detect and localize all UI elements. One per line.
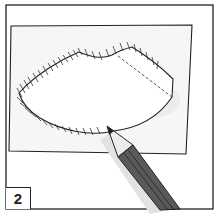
step-number-badge: 2: [6, 187, 31, 209]
illustration-panel: [0, 0, 219, 216]
